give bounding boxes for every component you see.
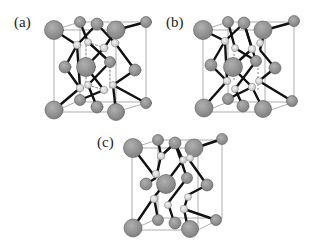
- structure-a: [45, 17, 152, 121]
- crystal-structures: [0, 0, 311, 249]
- structure-b: [194, 16, 300, 118]
- figure: (a) (b) (c): [0, 0, 311, 249]
- structure-c: [124, 134, 228, 238]
